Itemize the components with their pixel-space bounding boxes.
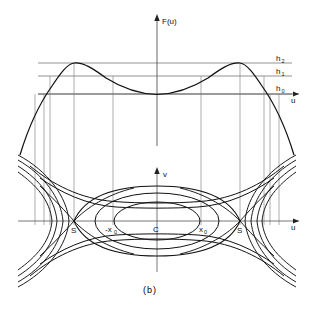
- level-label-h2: h 2: [276, 54, 285, 64]
- figure-svg: h 2 h 1 h 0 F(u) u: [0, 0, 315, 309]
- phase-u-axis-label: u: [291, 223, 295, 232]
- potential-y-axis-label: F(u): [162, 17, 177, 26]
- potential-plot-panel: h 2 h 1 h 0 F(u) u: [20, 14, 299, 155]
- turning-point-right-text: x: [199, 225, 203, 234]
- level-label-h0-sub: 0: [282, 88, 285, 94]
- saddle-left-label: S: [71, 226, 76, 235]
- figure-container: h 2 h 1 h 0 F(u) u: [0, 0, 315, 309]
- phase-v-axis-label: v: [163, 170, 167, 179]
- potential-F-axis: [154, 14, 159, 146]
- energy-level-lines: [38, 63, 292, 94]
- level-label-h2-text: h: [276, 54, 280, 63]
- phase-portrait-panel: S S C -x 0 x 0 v u: [18, 152, 299, 287]
- level-label-h1-sub: 1: [282, 71, 285, 77]
- figure-caption: (b): [143, 285, 157, 295]
- level-label-h1: h 1: [276, 67, 285, 77]
- level-label-h0-text: h: [276, 84, 280, 93]
- saddle-right-label: S: [237, 226, 242, 235]
- center-label: C: [153, 225, 159, 234]
- level-label-h1-text: h: [276, 67, 280, 76]
- potential-x-axis-label: u: [291, 96, 295, 105]
- level-label-h2-sub: 2: [282, 58, 285, 64]
- turning-point-left-sub: 0: [114, 229, 117, 235]
- turning-point-right-sub: 0: [204, 229, 207, 235]
- level-label-h0: h 0: [276, 84, 285, 94]
- turning-point-right-label: x 0: [199, 225, 207, 235]
- turning-point-left-text: -x: [105, 225, 112, 234]
